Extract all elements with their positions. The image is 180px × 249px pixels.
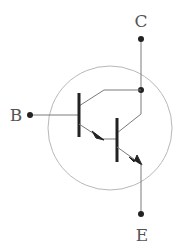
base-label: B bbox=[10, 105, 23, 125]
collector-terminal-dot bbox=[138, 36, 144, 42]
darlington-transistor-diagram: C B E bbox=[0, 0, 180, 249]
base-terminal-dot bbox=[27, 112, 33, 118]
q2-collector-line bbox=[117, 114, 141, 133]
transistor-envelope-circle bbox=[48, 66, 172, 190]
q1-collector-line bbox=[79, 90, 141, 106]
collector-label: C bbox=[134, 11, 147, 31]
emitter-terminal-dot bbox=[138, 211, 144, 217]
emitter-label: E bbox=[136, 225, 148, 245]
q1-emitter-arrow-icon bbox=[92, 131, 104, 140]
